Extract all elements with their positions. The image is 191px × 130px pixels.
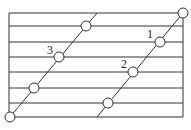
node-right-bottom-circle-icon bbox=[103, 98, 113, 108]
circle-nodes bbox=[5, 8, 188, 122]
node-right-top-circle-icon bbox=[178, 8, 188, 18]
node-right-2-circle-icon bbox=[128, 67, 138, 77]
diagonal-lines bbox=[10, 13, 183, 117]
diagram-canvas: 123 bbox=[0, 0, 191, 130]
number-labels: 123 bbox=[47, 27, 153, 71]
node-left-bottom-circle-icon bbox=[5, 112, 15, 122]
label-3: 3 bbox=[47, 43, 53, 57]
label-1: 1 bbox=[147, 27, 153, 41]
node-right-3-circle-icon bbox=[155, 37, 165, 47]
node-left-3-circle-icon bbox=[54, 52, 64, 62]
horizontal-lines bbox=[9, 13, 183, 117]
label-2: 2 bbox=[121, 57, 127, 71]
node-left-2-circle-icon bbox=[29, 83, 39, 93]
node-left-top-circle-icon bbox=[81, 21, 91, 31]
